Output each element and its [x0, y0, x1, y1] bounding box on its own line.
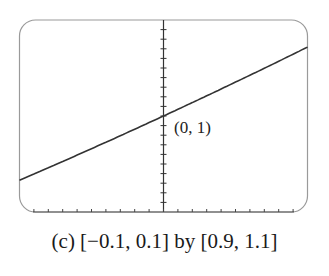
- figure-caption: (c) [−0.1, 0.1] by [0.9, 1.1]: [0, 229, 329, 254]
- point-label: (0, 1): [174, 118, 211, 137]
